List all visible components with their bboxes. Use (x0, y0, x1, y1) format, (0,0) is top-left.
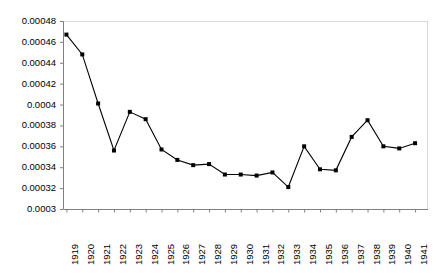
y-axis-ticks (60, 22, 64, 210)
data-point-marker (80, 52, 84, 56)
data-point-marker (112, 149, 116, 153)
data-point-marker (302, 144, 306, 148)
data-point-marker (270, 170, 274, 174)
data-point-marker (96, 102, 100, 106)
axis-lines (64, 21, 429, 210)
data-point-marker (366, 118, 370, 122)
data-point-marker (239, 173, 243, 177)
data-series-markers (64, 33, 417, 189)
data-point-marker (160, 147, 164, 151)
data-point-marker (334, 168, 338, 172)
data-point-marker (350, 135, 354, 139)
data-point-marker (397, 146, 401, 150)
data-point-marker (286, 185, 290, 189)
data-point-marker (191, 163, 195, 167)
data-point-marker (128, 110, 132, 114)
plot-area (0, 0, 440, 273)
data-point-marker (64, 33, 68, 37)
chart-container: 0.000480.000460.000440.000420.00040.0003… (0, 0, 440, 273)
data-point-marker (255, 174, 259, 178)
data-point-marker (223, 173, 227, 177)
data-series-line (66, 35, 415, 187)
data-point-marker (413, 141, 417, 145)
data-point-marker (381, 144, 385, 148)
data-point-marker (144, 117, 148, 121)
data-point-marker (175, 158, 179, 162)
data-point-marker (207, 162, 211, 166)
data-point-marker (318, 167, 322, 171)
